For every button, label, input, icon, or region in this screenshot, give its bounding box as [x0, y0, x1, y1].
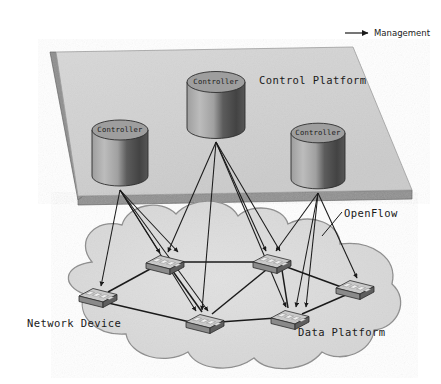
legend-management: Management	[345, 28, 431, 38]
controller-left[interactable]: Controller	[92, 120, 148, 186]
openflow-label: OpenFlow	[344, 207, 398, 219]
data-platform-label: Data Platform	[298, 326, 385, 338]
network-architecture-figure: Controller Controller Controller Control…	[0, 0, 441, 384]
network-device-label: Network Device	[27, 317, 121, 329]
controller-left-label: Controller	[97, 125, 143, 134]
controller-right[interactable]: Controller	[291, 123, 345, 189]
diagram-canvas: Controller Controller Controller Control…	[0, 0, 441, 384]
control-platform-label: Control Platform	[259, 74, 367, 86]
controller-center[interactable]: Controller	[187, 72, 245, 139]
controller-center-label: Controller	[193, 77, 239, 86]
controller-right-label: Controller	[295, 128, 341, 137]
legend-management-label: Management	[374, 28, 431, 38]
